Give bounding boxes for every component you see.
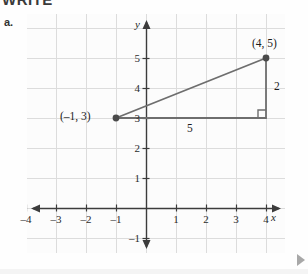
coordinate-graph: –4–3–2–11234–112345 x y (–1, 3) (4, 5) 5… [27, 14, 285, 253]
axis-lines [27, 20, 281, 249]
x-tick-label: 2 [203, 213, 209, 225]
header-cut-text: WRITE [2, 0, 53, 8]
point-label-b: (4, 5) [252, 37, 277, 49]
x-tick-label: –3 [51, 213, 62, 225]
x-tick-label: 4 [263, 213, 269, 225]
y-axis-letter: y [135, 18, 140, 30]
problem-letter-label: a. [4, 16, 13, 28]
next-page-caret-icon[interactable] [297, 254, 305, 266]
y-tick-label: 3 [135, 112, 141, 124]
run-length-label: 5 [187, 122, 193, 134]
header-strip: WRITE [0, 0, 308, 12]
bottom-rule [0, 269, 308, 274]
x-tick-label: –1 [111, 213, 122, 225]
x-tick-label: 3 [233, 213, 239, 225]
y-tick-label: 1 [135, 172, 141, 184]
x-tick-label: –2 [81, 213, 92, 225]
x-tick-label: 1 [173, 213, 179, 225]
y-tick-label: 5 [135, 52, 141, 64]
plot-layer [27, 14, 285, 253]
x-tick-label: –4 [21, 213, 32, 225]
x-axis-letter: x [271, 211, 276, 223]
y-tick-label: 4 [135, 82, 141, 94]
rise-length-label: 2 [274, 80, 280, 92]
y-tick-label: 2 [135, 142, 141, 154]
y-tick-label: –1 [129, 232, 140, 244]
point-label-a: (–1, 3) [60, 110, 91, 122]
